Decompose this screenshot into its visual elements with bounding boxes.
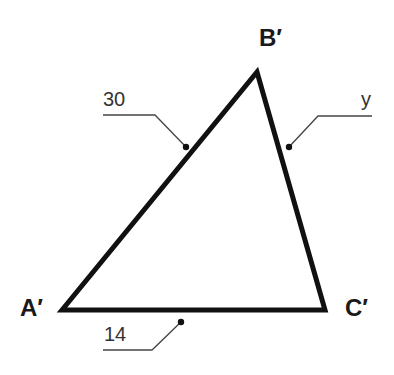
triangle-diagram: B′ A′ C′ 30 y 14 xyxy=(0,0,394,375)
side-label-ab: 30 xyxy=(103,88,125,110)
leader-side-bc xyxy=(286,116,372,150)
side-label-bc: y xyxy=(361,88,371,110)
leader-side-ab xyxy=(103,115,189,150)
vertex-label-c: C′ xyxy=(345,294,368,321)
triangle-abc-prime xyxy=(62,72,325,310)
side-label-ac: 14 xyxy=(104,323,126,345)
vertex-label-a: A′ xyxy=(20,294,43,321)
vertex-label-b: B′ xyxy=(259,24,282,51)
